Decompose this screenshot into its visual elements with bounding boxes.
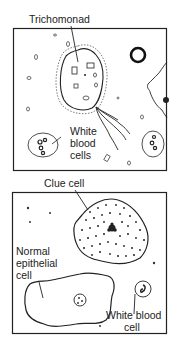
ring-artifact	[131, 48, 145, 62]
label-clue-cell: Clue cell	[44, 177, 84, 189]
panel-trichomoniasis: Trichomonad White blood c	[14, 13, 170, 171]
label-normal-2: epithelial	[16, 257, 57, 269]
panel-bacterial-vaginosis: Clue cell Normal epithelial cell White b…	[13, 177, 167, 334]
wbc-left	[28, 133, 58, 157]
label-trichomonad: Trichomonad	[29, 13, 90, 25]
trichomonad-cell	[60, 49, 103, 110]
label-wbc-3: cells	[70, 149, 91, 161]
label-wbc-p2-2: cell	[124, 321, 140, 333]
normal-epithelial-cell	[25, 273, 114, 326]
label-wbc-p2-1: White blood	[106, 309, 162, 321]
label-wbc-1: White	[70, 125, 97, 137]
label-wbc-2: blood	[70, 137, 96, 149]
label-normal-3: cell	[16, 269, 32, 281]
diagram: Trichomonad White blood c	[0, 0, 177, 347]
flagella	[96, 107, 130, 150]
label-normal-1: Normal	[16, 245, 50, 257]
